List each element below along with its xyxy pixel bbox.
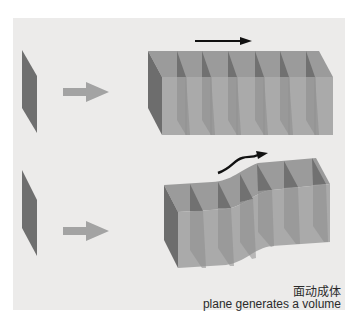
caption-english: plane generates a volume bbox=[203, 297, 341, 311]
diagram-canvas bbox=[0, 0, 355, 326]
arrow-icon-top bbox=[63, 82, 109, 102]
plane-shape-bottom bbox=[22, 170, 37, 256]
arrow-icon-bottom bbox=[63, 221, 109, 241]
wavy-volume bbox=[164, 158, 330, 268]
plane-shape-top bbox=[22, 50, 37, 133]
rectangular-prism bbox=[148, 51, 333, 135]
straight-motion-arrow-icon bbox=[195, 37, 252, 45]
